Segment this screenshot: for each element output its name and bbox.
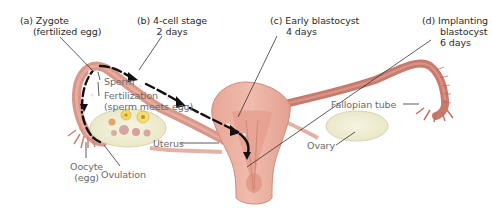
label-early-blastocyst-title: (c) Early blastocyst <box>270 15 359 26</box>
label-oocyte-title: Oocyte <box>70 161 103 172</box>
label-fallopian-tube: Fallopian tube <box>331 99 396 110</box>
label-sperm: Sperm <box>104 76 134 87</box>
follicle <box>111 130 117 136</box>
leader-ovulation <box>104 145 120 166</box>
follicle <box>109 119 116 126</box>
follicle <box>144 130 151 137</box>
label-fertilization-subtitle: (sperm meets egg) <box>104 101 193 112</box>
leader-zygote <box>60 37 94 72</box>
label-ovary: Ovary <box>307 140 335 151</box>
label-early-blastocyst-time: 4 days <box>270 26 359 37</box>
label-uterus: Uterus <box>153 138 184 149</box>
label-oocyte: Oocyte (egg) <box>70 161 103 183</box>
label-implanting-subtitle: blastocyst <box>422 26 488 37</box>
uterus <box>212 82 290 204</box>
leader-fertilization <box>98 82 99 96</box>
label-4-cell-time: 2 days <box>137 26 207 37</box>
follicle <box>119 125 129 135</box>
follicle <box>132 128 140 136</box>
label-zygote: (a) Zygote (fertilized egg) <box>20 15 101 37</box>
leader-4-cell <box>139 36 162 70</box>
label-4-cell-title: (b) 4-cell stage <box>137 15 207 26</box>
label-oocyte-subtitle: (egg) <box>70 172 103 183</box>
label-fertilization-title: Fertilization <box>104 90 193 101</box>
leader-sperm <box>98 72 100 80</box>
label-4-cell-stage: (b) 4-cell stage 2 days <box>137 15 207 37</box>
label-implanting-time: 6 days <box>422 37 488 48</box>
label-zygote-subtitle: (fertilized egg) <box>20 26 101 37</box>
right-ovary <box>326 111 388 141</box>
fertilization-diagram: (a) Zygote (fertilized egg) (b) 4-cell s… <box>0 0 492 208</box>
label-early-blastocyst: (c) Early blastocyst 4 days <box>270 15 359 37</box>
label-zygote-title: (a) Zygote <box>20 15 101 26</box>
label-implanting-blastocyst: (d) Implanting blastocyst 6 days <box>422 15 488 48</box>
label-ovulation: Ovulation <box>101 169 146 180</box>
label-fertilization: Fertilization (sperm meets egg) <box>104 90 193 112</box>
label-implanting-title: (d) Implanting <box>422 15 488 26</box>
